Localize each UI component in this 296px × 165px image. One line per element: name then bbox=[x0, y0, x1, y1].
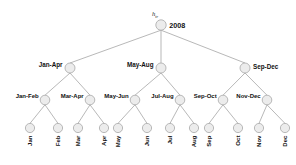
label-quarter-sep-dec: Sep-Dec bbox=[253, 63, 279, 71]
tree-edges bbox=[30, 30, 285, 123]
edge-pair-0-month-0 bbox=[30, 105, 45, 124]
edge-pair-2-month-5 bbox=[135, 105, 147, 124]
edge-pair-1-month-2 bbox=[78, 105, 90, 124]
label-month-jul: Jul bbox=[167, 135, 173, 144]
label-month-apr: Apr bbox=[101, 135, 107, 146]
edge-pair-5-month-11 bbox=[267, 105, 285, 124]
root-annotation: htr bbox=[152, 10, 158, 19]
node-root-2008[interactable] bbox=[156, 20, 166, 30]
node-month-oct[interactable] bbox=[233, 123, 242, 132]
edge-quarter-0-pair-0 bbox=[45, 73, 70, 95]
node-quarter-jan-apr[interactable] bbox=[65, 63, 75, 73]
edge-pair-3-month-7 bbox=[180, 105, 194, 124]
h-subscript: tr bbox=[155, 14, 158, 19]
label-month-oct: Oct bbox=[235, 136, 241, 146]
edge-pair-1-month-3 bbox=[90, 105, 104, 124]
label-month-nov: Nov bbox=[256, 135, 262, 147]
label-month-jan: Jan bbox=[27, 135, 33, 146]
edge-quarter-1-pair-2 bbox=[135, 73, 161, 95]
node-pair-mar-apr[interactable] bbox=[85, 95, 95, 105]
node-quarter-may-aug[interactable] bbox=[156, 63, 166, 73]
edge-pair-4-month-8 bbox=[209, 105, 223, 124]
label-quarter-jan-apr: Jan-Apr bbox=[39, 61, 63, 69]
node-quarter-sep-dec[interactable] bbox=[240, 63, 250, 73]
label-pair-mar-apr: Mar-Apr bbox=[61, 93, 85, 99]
label-pair-nov-dec: Nov-Dec bbox=[236, 93, 261, 99]
edge-pair-3-month-6 bbox=[170, 105, 180, 124]
node-pair-sep-oct[interactable] bbox=[218, 95, 228, 105]
edge-quarter-0-pair-1 bbox=[70, 73, 90, 95]
label-root-year: 2008 bbox=[169, 21, 185, 30]
edge-root-quarter-0 bbox=[70, 30, 161, 63]
tree-diagram-canvas: 2008Jan-AprMay-AugSep-DecJan-FebMar-AprM… bbox=[0, 0, 296, 165]
label-pair-sep-oct: Sep-Oct bbox=[194, 93, 217, 99]
hierarchical-tree-figure: 2008Jan-AprMay-AugSep-DecJan-FebMar-AprM… bbox=[0, 0, 296, 165]
edge-pair-0-month-1 bbox=[45, 105, 58, 124]
edge-pair-5-month-10 bbox=[259, 105, 267, 124]
node-pair-may-jun[interactable] bbox=[130, 95, 140, 105]
label-pair-jul-aug: Jul-Aug bbox=[151, 93, 174, 99]
edge-quarter-1-pair-3 bbox=[161, 73, 180, 95]
node-month-may[interactable] bbox=[113, 123, 122, 132]
label-month-feb: Feb bbox=[55, 135, 61, 146]
edge-root-quarter-2 bbox=[161, 30, 245, 63]
node-month-jul[interactable] bbox=[165, 123, 174, 132]
node-month-jan[interactable] bbox=[25, 123, 34, 132]
label-pair-may-jun: May-Jun bbox=[104, 93, 129, 99]
edge-quarter-2-pair-5 bbox=[245, 73, 267, 95]
node-month-dec[interactable] bbox=[280, 123, 289, 132]
edge-quarter-2-pair-4 bbox=[223, 73, 245, 95]
node-month-mar[interactable] bbox=[73, 123, 82, 132]
node-month-apr[interactable] bbox=[99, 123, 108, 132]
node-month-feb[interactable] bbox=[53, 123, 62, 132]
label-month-aug: Aug bbox=[191, 135, 197, 147]
node-month-jun[interactable] bbox=[142, 123, 151, 132]
label-month-sep: Sep bbox=[206, 135, 212, 146]
label-month-mar: Mar bbox=[75, 135, 81, 146]
edge-pair-2-month-4 bbox=[118, 105, 135, 124]
label-month-jun: Jun bbox=[144, 135, 150, 146]
label-pair-jan-feb: Jan-Feb bbox=[16, 93, 39, 99]
node-month-aug[interactable] bbox=[189, 123, 198, 132]
label-h-tr: htr bbox=[152, 10, 158, 19]
label-quarter-may-aug: May-Aug bbox=[127, 61, 154, 69]
node-pair-jan-feb[interactable] bbox=[40, 95, 50, 105]
label-month-dec: Dec bbox=[282, 135, 288, 147]
node-month-sep[interactable] bbox=[204, 123, 213, 132]
label-month-may: May bbox=[115, 135, 121, 147]
node-pair-jul-aug[interactable] bbox=[175, 95, 185, 105]
node-pair-nov-dec[interactable] bbox=[262, 95, 272, 105]
node-month-nov[interactable] bbox=[254, 123, 263, 132]
edge-pair-4-month-9 bbox=[223, 105, 238, 124]
